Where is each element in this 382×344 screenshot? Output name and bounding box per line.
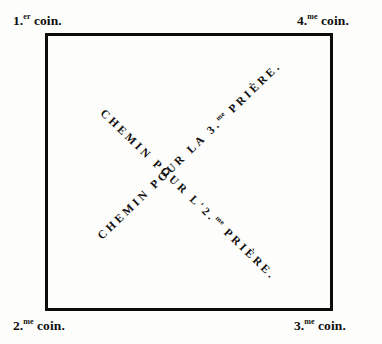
path-tail-text: PRIÈRE. (218, 222, 280, 282)
corner-noun: coin. (315, 318, 346, 333)
corner-label-bottom-left: 2.me coin. (13, 318, 65, 332)
square-enclosure: CHEMIN POUR L'2.me PRIÈRE. CHEMIN POUR L… (45, 33, 333, 311)
path-label-second-prayer: CHEMIN POUR L'2.me PRIÈRE. (98, 106, 279, 282)
path-lead-text: CHEMIN POUR L' (98, 107, 208, 214)
corner-label-bottom-right: 3.me coin. (294, 318, 346, 332)
corner-label-top-left: 1.er coin. (13, 13, 62, 27)
corner-noun: coin. (318, 13, 349, 28)
corner-noun: coin. (30, 13, 61, 28)
corner-ordinal-suffix: me (23, 317, 33, 326)
path-tail-text: PRIÈRE. (222, 59, 284, 119)
corner-ordinal-suffix: me (307, 12, 317, 21)
corner-number: 3. (294, 318, 304, 333)
corner-label-top-right: 4.me coin. (297, 13, 349, 27)
corner-ordinal-suffix: me (304, 317, 314, 326)
figure-canvas: 1.er coin. 4.me coin. 2.me coin. 3.me co… (0, 0, 382, 344)
corner-number: 4. (297, 13, 307, 28)
path-label-third-prayer: CHEMIN POUR LA 3.me PRIÈRE. (95, 58, 284, 241)
corner-noun: coin. (34, 318, 65, 333)
path-lead-text: CHEMIN POUR LA (95, 128, 212, 242)
corner-number: 2. (13, 318, 23, 333)
corner-number: 1. (13, 13, 23, 28)
